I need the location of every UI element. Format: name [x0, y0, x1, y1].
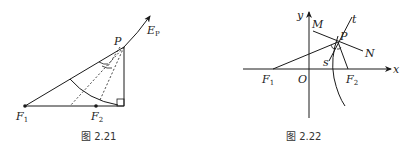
label-f2: F2: [90, 110, 103, 124]
arc: [70, 79, 118, 105]
point-f1: [23, 104, 27, 108]
point-f2: [94, 104, 98, 108]
dashed-line-2: [100, 47, 124, 100]
label-e-p: EP: [146, 24, 160, 38]
figure-2-21: P EP F1 F2 图 2.21: [15, 16, 160, 142]
caption-2-21: 图 2.21: [81, 131, 116, 142]
label-m: M: [311, 18, 324, 31]
angle-mark-1: [99, 62, 108, 64]
angle-mark-2: [102, 66, 112, 68]
label-p: P: [339, 30, 348, 43]
caption-2-22: 图 2.22: [286, 131, 321, 142]
label-p: P: [113, 35, 122, 48]
label-s: s: [323, 56, 329, 69]
label-n: N: [364, 47, 375, 60]
label-f1: F1: [261, 73, 274, 87]
diagram-canvas: P EP F1 F2 图 2.21 y x O M N P t s F1 F2: [0, 0, 409, 149]
normal-line-mn: [313, 31, 363, 51]
dashed-line-3: [108, 47, 120, 66]
label-f2: F2: [345, 73, 358, 87]
f1-p-line: [25, 47, 124, 106]
dashed-line-1: [70, 47, 124, 106]
label-y: y: [296, 9, 304, 22]
label-x: x: [393, 63, 400, 76]
p-f2-line: [338, 42, 348, 69]
label-f1: F1: [15, 110, 28, 124]
label-o: O: [298, 73, 307, 86]
hyperbola-branch: [333, 36, 345, 106]
right-angle-mark: [117, 99, 124, 106]
figure-2-22: y x O M N P t s F1 F2 图 2.22: [243, 9, 400, 142]
label-t: t: [352, 13, 357, 26]
